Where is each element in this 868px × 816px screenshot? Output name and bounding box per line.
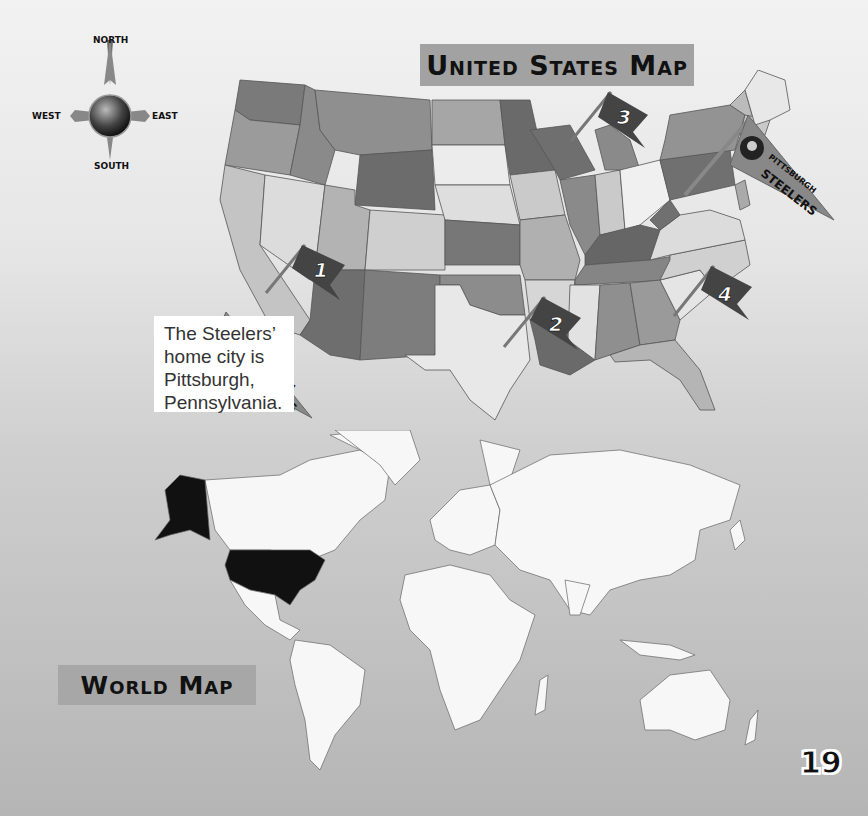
callout-box: The Steelers’ home city is Pittsburgh, P… bbox=[154, 316, 294, 412]
continent-south-america bbox=[290, 640, 365, 770]
continent-europe bbox=[430, 485, 500, 555]
continent-asia bbox=[490, 450, 740, 615]
svg-text:4: 4 bbox=[717, 282, 732, 306]
flag-marker-2[interactable]: 2 bbox=[504, 297, 581, 350]
steelers-pennant-us: PITTSBURGH STEELERS bbox=[685, 115, 834, 220]
callout-line: Pittsburgh, bbox=[164, 368, 294, 391]
country-indonesia bbox=[620, 640, 695, 660]
continent-africa bbox=[400, 565, 535, 730]
world-map-title: World Map bbox=[58, 665, 256, 705]
country-alaska bbox=[155, 475, 210, 540]
page-number: 19 bbox=[800, 745, 842, 780]
callout-line: The Steelers’ bbox=[164, 322, 294, 345]
flag-marker-1[interactable]: 1 bbox=[266, 245, 345, 300]
country-canada bbox=[205, 450, 390, 560]
flag-marker-4[interactable]: 4 bbox=[674, 266, 752, 320]
country-new-zealand bbox=[745, 710, 758, 745]
country-australia bbox=[640, 670, 730, 740]
world-map bbox=[150, 430, 770, 780]
country-madagascar bbox=[535, 675, 548, 715]
flag-marker-3[interactable]: 3 bbox=[571, 92, 648, 148]
svg-text:2: 2 bbox=[549, 312, 563, 336]
svg-text:3: 3 bbox=[617, 105, 631, 129]
callout-line: home city is bbox=[164, 345, 294, 368]
world-countries-map bbox=[150, 430, 770, 780]
svg-text:1: 1 bbox=[314, 258, 328, 282]
country-japan bbox=[730, 520, 745, 550]
callout-line: Pennsylvania. bbox=[164, 391, 294, 414]
